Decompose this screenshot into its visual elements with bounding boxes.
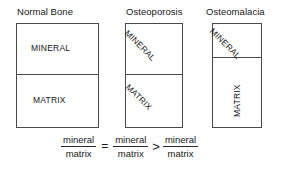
fraction-denominator: matrix xyxy=(166,147,196,159)
fraction-osteomalacia: mineral matrix xyxy=(163,134,198,159)
panel-title-osteoporosis: Osteoporosis xyxy=(126,6,183,17)
bone-box-normal-bone xyxy=(16,23,99,128)
panel-title-osteomalacia: Osteomalacia xyxy=(206,6,265,17)
fraction-denominator: matrix xyxy=(64,147,94,159)
fraction-osteoporosis: mineral matrix xyxy=(113,134,148,159)
region-label-matrix-normal-bone: MATRIX xyxy=(33,95,66,105)
region-label-mineral-normal-bone: MINERAL xyxy=(31,43,70,53)
ratio-equation: mineral matrix = mineral matrix > minera… xyxy=(60,134,199,159)
fraction-numerator: mineral xyxy=(163,134,198,146)
fraction-numerator: mineral xyxy=(113,134,148,146)
fraction-denominator: matrix xyxy=(116,147,146,159)
region-label-matrix-osteomalacia: MATRIX xyxy=(232,84,242,117)
greater-than-operator: > xyxy=(149,141,162,152)
fraction-normal-bone: mineral matrix xyxy=(61,134,96,159)
panel-title-normal-bone: Normal Bone xyxy=(17,6,73,17)
equals-operator: = xyxy=(97,141,112,152)
bone-composition-figure: Normal Bone MINERAL MATRIX Osteoporosis … xyxy=(0,0,302,170)
fraction-numerator: mineral xyxy=(61,134,96,146)
divider-normal-bone xyxy=(16,74,99,75)
divider-osteoporosis xyxy=(125,74,183,75)
